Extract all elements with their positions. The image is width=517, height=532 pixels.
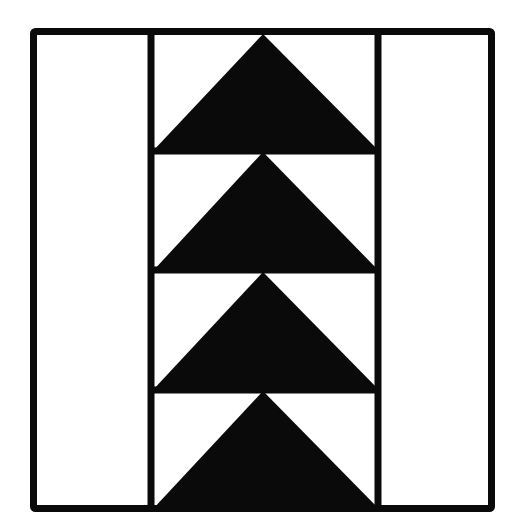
- goose-triangle-2: [152, 152, 380, 272]
- goose-triangle-4: [152, 391, 380, 510]
- goose-triangle-1: [152, 34, 380, 152]
- quilt-block-diagram: [0, 0, 517, 532]
- goose-triangle-3: [152, 272, 380, 391]
